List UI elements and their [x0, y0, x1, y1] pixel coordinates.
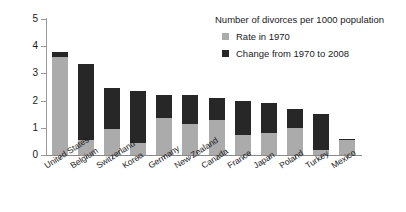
- legend-item-change-1970-2008: Change from 1970 to 2008: [222, 48, 405, 59]
- bar-segment-change-1970-2008: [78, 64, 94, 140]
- divorce-rate-bar-chart: 012345 United StatesBelgiumSwitzerlandKo…: [0, 0, 406, 212]
- value-axis-tick-label: 4: [12, 41, 38, 51]
- bar-segment-change-1970-2008: [261, 103, 277, 133]
- chart-legend: Number of divorces per 1000 population R…: [215, 14, 405, 65]
- bar-segment-change-1970-2008: [287, 109, 303, 128]
- legend-swatch-icon-rate-1970: [222, 33, 229, 40]
- bar-stack: [78, 19, 94, 155]
- bar-segment-change-1970-2008: [130, 91, 146, 143]
- bar-stack: [182, 19, 198, 155]
- bar-segment-change-1970-2008: [156, 95, 172, 118]
- value-axis-tick-label: 2: [12, 96, 38, 106]
- bar-segment-change-1970-2008: [339, 139, 355, 140]
- bar-segment-change-1970-2008: [313, 114, 329, 149]
- bar-stack: [156, 19, 172, 155]
- bar-stack: [104, 19, 120, 155]
- bar-segment-change-1970-2008: [209, 98, 225, 120]
- bar-segment-change-1970-2008: [182, 95, 198, 124]
- value-axis-tick-label: 1: [12, 123, 38, 133]
- legend-title: Number of divorces per 1000 population: [215, 14, 405, 25]
- bar-stack: [130, 19, 146, 155]
- legend-swatch-icon-change-1970-2008: [222, 50, 229, 57]
- bar-stack: [52, 19, 68, 155]
- bar-segment-change-1970-2008: [52, 52, 68, 57]
- value-axis-tick: [41, 155, 47, 156]
- value-axis-tick-label: 5: [12, 14, 38, 24]
- bar-segment-change-1970-2008: [235, 101, 251, 135]
- legend-label-change-1970-2008: Change from 1970 to 2008: [236, 48, 349, 59]
- legend-label-rate-1970: Rate in 1970: [236, 31, 290, 42]
- bar-segment-change-1970-2008: [104, 88, 120, 129]
- bar-segment-rate-1970: [52, 57, 68, 155]
- value-axis-tick-label: 3: [12, 68, 38, 78]
- legend-item-rate-1970: Rate in 1970: [222, 31, 405, 42]
- value-axis-tick-label: 0: [12, 150, 38, 160]
